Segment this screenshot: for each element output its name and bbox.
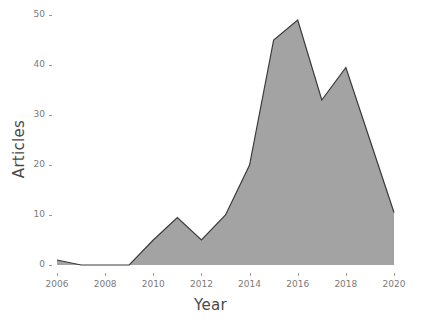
x-tick-mark (346, 273, 347, 276)
x-tick-mark (105, 273, 106, 276)
x-axis-title: Year (0, 296, 421, 314)
area-fill-series-articles (57, 20, 394, 265)
x-tick-label: 2014 (230, 279, 270, 289)
x-tick-mark (394, 273, 395, 276)
x-tick-mark (153, 273, 154, 276)
x-tick-mark (298, 273, 299, 276)
plot-area (0, 0, 421, 323)
y-tick-label: 50 (15, 9, 45, 19)
x-tick-label: 2020 (374, 279, 414, 289)
y-tick-mark (49, 115, 52, 116)
x-tick-label: 2016 (278, 279, 318, 289)
x-tick-label: 2018 (326, 279, 366, 289)
y-tick-mark (49, 215, 52, 216)
y-tick-label: 40 (15, 59, 45, 69)
y-tick-label: 0 (15, 259, 45, 269)
y-tick-label: 10 (15, 209, 45, 219)
x-tick-label: 2010 (133, 279, 173, 289)
x-tick-label: 2012 (181, 279, 221, 289)
y-tick-mark (49, 65, 52, 66)
y-tick-label: 30 (15, 109, 45, 119)
x-tick-mark (57, 273, 58, 276)
x-tick-mark (201, 273, 202, 276)
y-tick-label: 20 (15, 159, 45, 169)
y-tick-mark (49, 265, 52, 266)
x-tick-mark (250, 273, 251, 276)
area-chart-figure: Articles Year 01020304050 20062008201020… (0, 0, 421, 323)
x-tick-label: 2008 (85, 279, 125, 289)
y-tick-mark (49, 15, 52, 16)
y-tick-mark (49, 165, 52, 166)
x-tick-label: 2006 (37, 279, 77, 289)
